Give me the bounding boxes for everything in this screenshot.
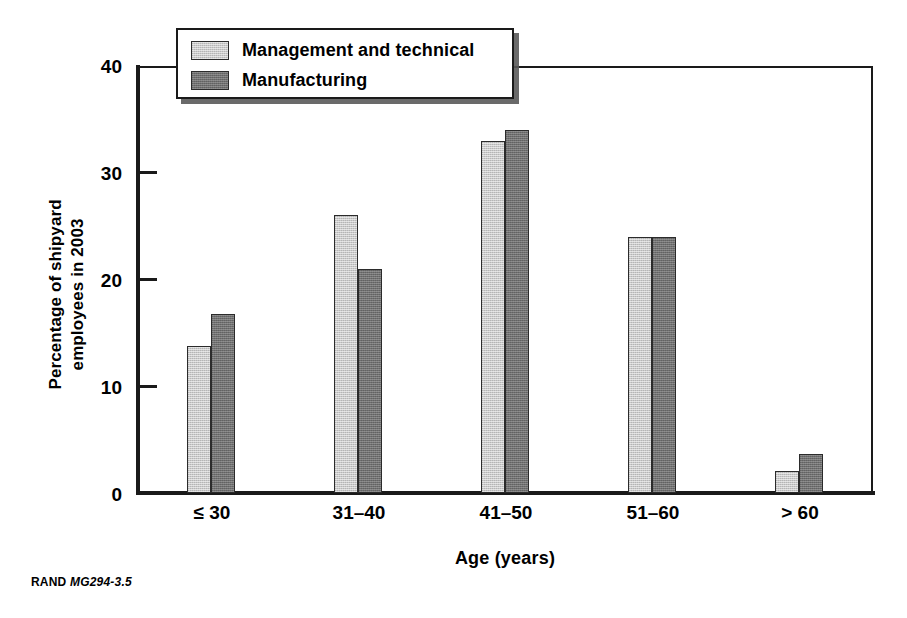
bar-manufacturing-0 [211, 314, 235, 493]
footer-org: RAND [31, 575, 66, 589]
y-axis-title-line-1: Percentage of shipyard [45, 129, 67, 459]
bar-management-and-technical-0 [187, 346, 211, 493]
legend-label-series-1: Manufacturing [242, 70, 367, 91]
bar-manufacturing-1 [358, 269, 382, 493]
y-tick-label-0: 0 [78, 485, 122, 504]
x-axis-title: Age (years) [137, 548, 873, 569]
legend-swatch-icon-series-0 [191, 41, 229, 60]
bar-manufacturing-2 [505, 130, 529, 493]
legend-entry-manufacturing: Manufacturing [178, 65, 512, 95]
y-tick-label-30: 30 [78, 164, 122, 183]
y-tick-label-20: 20 [78, 271, 122, 290]
legend-swatch-icon-series-1 [191, 71, 229, 90]
footer-figure-id: MG294-3.5 [70, 575, 132, 589]
bar-management-and-technical-3 [628, 237, 652, 493]
x-tick-label-1: 31–40 [284, 503, 434, 522]
chart-legend: Management and technical Manufacturing [176, 28, 514, 99]
y-tick-mark-30 [140, 171, 157, 174]
bar-manufacturing-4 [799, 454, 823, 493]
legend-label-series-0: Management and technical [242, 40, 474, 61]
legend-entry-management-and-technical: Management and technical [178, 35, 512, 65]
figure-container: Percentage of shipyard employees in 2003… [0, 0, 907, 618]
bar-management-and-technical-2 [481, 141, 505, 493]
x-tick-label-2: 41–50 [431, 503, 581, 522]
figure-source-footer: RAND MG294-3.5 [31, 575, 132, 589]
y-tick-mark-20 [140, 278, 157, 281]
x-tick-label-3: 51–60 [578, 503, 728, 522]
bar-management-and-technical-1 [334, 215, 358, 493]
y-tick-label-10: 10 [78, 378, 122, 397]
y-tick-label-40: 40 [78, 57, 122, 76]
bar-manufacturing-3 [652, 237, 676, 493]
x-tick-label-4: > 60 [725, 503, 875, 522]
x-tick-label-0: ≤ 30 [137, 503, 287, 522]
y-tick-mark-10 [140, 385, 157, 388]
bar-management-and-technical-4 [775, 471, 799, 493]
